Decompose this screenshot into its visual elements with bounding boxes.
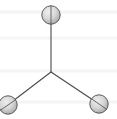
atom-top bbox=[42, 6, 60, 25]
bond-group bbox=[9, 15, 99, 104]
structure-canvas bbox=[0, 0, 117, 119]
gridline-3 bbox=[0, 70, 117, 73]
molecular-structure-diagram bbox=[0, 0, 117, 119]
background-gridlines bbox=[0, 11, 117, 104]
gridline-2 bbox=[0, 37, 117, 40]
atom-bottom-left bbox=[0, 96, 17, 114]
atom-bottom-right bbox=[90, 95, 108, 113]
